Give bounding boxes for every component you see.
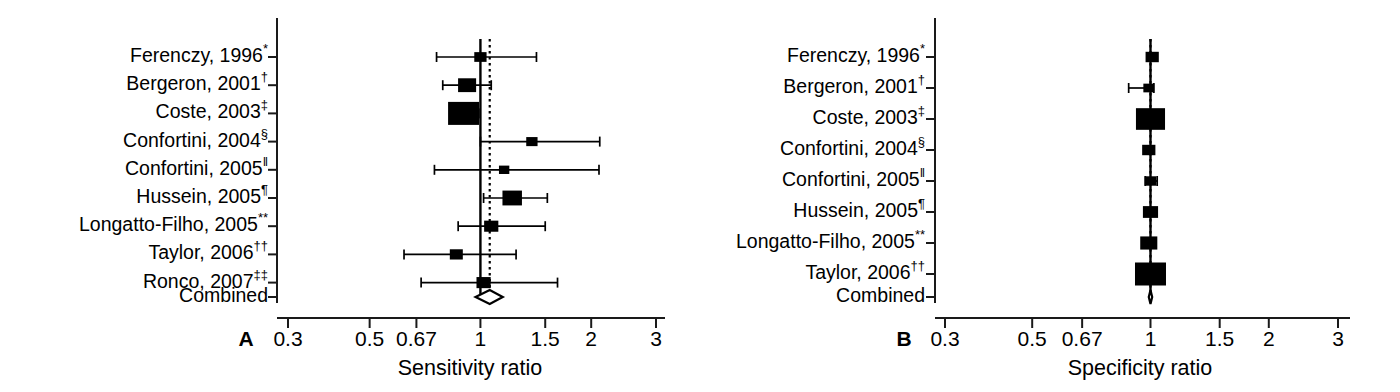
study-footnote-marker: ††	[254, 238, 268, 253]
study-label: Bergeron, 2001†	[126, 69, 268, 94]
study-label: Confortini, 2004§	[780, 134, 925, 159]
study-label: Hussein, 2005¶	[793, 196, 925, 221]
forest-row: Taylor, 2006††	[148, 238, 516, 263]
study-footnote-marker: ‡‡	[254, 267, 268, 282]
study-name: Confortini, 2005	[782, 168, 920, 190]
study-footnote-marker: †	[918, 72, 925, 87]
study-footnote-marker: §	[261, 126, 268, 141]
x-axis-title: Sensitivity ratio	[398, 356, 543, 380]
x-axis-tick-label: 0.5	[1018, 327, 1047, 350]
effect-estimate-box	[526, 137, 537, 146]
study-label: Taylor, 2006††	[805, 258, 925, 283]
forest-row: Hussein, 2005¶	[136, 182, 547, 207]
study-footnote-marker: ‖	[920, 165, 925, 180]
effect-estimate-box	[458, 78, 476, 92]
study-label: Ferenczy, 1996*	[130, 41, 268, 66]
x-axis-tick-label: 1.5	[1205, 327, 1234, 350]
summary-label: Combined	[179, 284, 268, 306]
study-name: Longatto-Filho, 2005	[79, 213, 258, 235]
forest-row: Ferenczy, 1996*	[787, 41, 1159, 66]
study-name: Ferenczy, 1996	[130, 44, 263, 66]
forest-row: Longatto-Filho, 2005**	[79, 210, 545, 235]
panel-letter: A	[238, 327, 253, 350]
forest-row: Longatto-Filho, 2005**	[736, 227, 1157, 252]
x-axis-tick-label: 0.3	[273, 327, 302, 350]
forest-plot-figure: Ferenczy, 1996*Bergeron, 2001†Coste, 200…	[0, 0, 1400, 392]
x-axis-tick-label: 3	[1332, 327, 1344, 350]
study-name: Bergeron, 2001	[783, 75, 917, 97]
summary-label: Combined	[836, 284, 925, 306]
study-name: Confortini, 2004	[123, 129, 261, 151]
study-footnote-marker: ††	[911, 258, 925, 273]
study-name: Confortini, 2005	[125, 157, 263, 179]
forest-row: Confortini, 2005‖	[782, 165, 1157, 190]
study-footnote-marker: §	[918, 134, 925, 149]
forest-row: Hussein, 2005¶	[793, 196, 1158, 221]
study-name: Taylor, 2006	[805, 261, 910, 283]
study-label: Ferenczy, 1996*	[787, 41, 925, 66]
study-name: Longatto-Filho, 2005	[736, 230, 915, 252]
study-footnote-marker: *	[263, 41, 268, 56]
study-footnote-marker: **	[915, 227, 925, 242]
study-footnote-marker: **	[258, 210, 268, 225]
forest-panel-a: Ferenczy, 1996*Bergeron, 2001†Coste, 200…	[0, 0, 700, 392]
study-label: Confortini, 2005‖	[782, 165, 925, 190]
forest-row: Coste, 2003‡	[813, 103, 1165, 130]
study-label: Coste, 2003‡	[156, 97, 268, 122]
forest-row: Ferenczy, 1996*	[130, 41, 536, 66]
forest-row: Taylor, 2006††	[805, 258, 1166, 286]
study-footnote-marker: ‡	[918, 103, 925, 118]
x-axis-title: Specificity ratio	[1068, 356, 1213, 380]
x-axis-tick-label: 2	[585, 327, 597, 350]
study-label: Hussein, 2005¶	[136, 182, 268, 207]
study-label: Longatto-Filho, 2005**	[79, 210, 268, 235]
effect-estimate-box	[1143, 84, 1154, 93]
forest-plot-b: Ferenczy, 1996*Bergeron, 2001†Coste, 200…	[660, 0, 1400, 392]
forest-plot-a: Ferenczy, 1996*Bergeron, 2001†Coste, 200…	[0, 0, 700, 392]
summary-diamond	[1149, 290, 1152, 304]
x-axis-tick-label: 0.67	[396, 327, 437, 350]
effect-estimate-box	[1146, 52, 1159, 62]
study-label: Confortini, 2005‖	[125, 154, 268, 179]
study-name: Hussein, 2005	[793, 199, 918, 221]
study-name: Coste, 2003	[813, 106, 918, 128]
forest-panel-b: Ferenczy, 1996*Bergeron, 2001†Coste, 200…	[660, 0, 1400, 392]
study-name: Bergeron, 2001	[126, 72, 260, 94]
effect-estimate-box	[448, 102, 479, 125]
study-name: Coste, 2003	[156, 101, 261, 123]
forest-row: Confortini, 2004§	[123, 126, 600, 151]
study-label: Confortini, 2004§	[123, 126, 268, 151]
x-axis-tick-label: 0.5	[355, 327, 384, 350]
study-footnote-marker: ‡	[261, 97, 268, 112]
effect-estimate-box	[1142, 145, 1155, 155]
study-name: Hussein, 2005	[136, 185, 261, 207]
x-axis-tick-label: 1.5	[531, 327, 560, 350]
study-label: Taylor, 2006††	[148, 238, 268, 263]
study-footnote-marker: ¶	[918, 196, 925, 211]
study-label: Bergeron, 2001†	[783, 72, 925, 97]
forest-row: Coste, 2003‡	[156, 97, 479, 125]
x-axis-tick-label: 1	[1145, 327, 1157, 350]
study-label: Longatto-Filho, 2005**	[736, 227, 925, 252]
forest-row: Confortini, 2004§	[780, 134, 1155, 159]
study-footnote-marker: *	[920, 41, 925, 56]
forest-row: Bergeron, 2001†	[783, 72, 1154, 97]
x-axis-tick-label: 0.3	[930, 327, 959, 350]
effect-estimate-box	[476, 277, 490, 288]
effect-estimate-box	[1140, 236, 1157, 249]
effect-estimate-box	[502, 191, 521, 206]
study-name: Confortini, 2004	[780, 137, 918, 159]
x-axis-tick-label: 1	[475, 327, 487, 350]
study-name: Ferenczy, 1996	[787, 44, 920, 66]
effect-estimate-box	[484, 221, 498, 232]
forest-row: Bergeron, 2001†	[126, 69, 491, 94]
effect-estimate-box	[499, 166, 509, 174]
study-footnote-marker: †	[261, 69, 268, 84]
x-axis-tick-label: 0.67	[1062, 327, 1103, 350]
study-footnote-marker: ¶	[261, 182, 268, 197]
effect-estimate-box	[450, 249, 463, 259]
study-footnote-marker: ‖	[263, 154, 268, 169]
forest-row: Confortini, 2005‖	[125, 154, 599, 179]
panel-letter: B	[896, 327, 911, 350]
study-label: Coste, 2003‡	[813, 103, 925, 128]
